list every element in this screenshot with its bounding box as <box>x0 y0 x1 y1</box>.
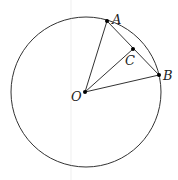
segment-ob <box>85 75 159 92</box>
point-b <box>157 73 161 77</box>
label-b: B <box>162 68 173 83</box>
label-o: O <box>71 89 82 104</box>
geometry-diagram: A B C O <box>0 0 178 180</box>
point-c <box>131 47 135 51</box>
label-c: C <box>125 53 135 68</box>
label-a: A <box>111 12 121 27</box>
point-o <box>83 90 87 94</box>
segment-oa <box>85 21 107 92</box>
point-a <box>105 19 109 23</box>
